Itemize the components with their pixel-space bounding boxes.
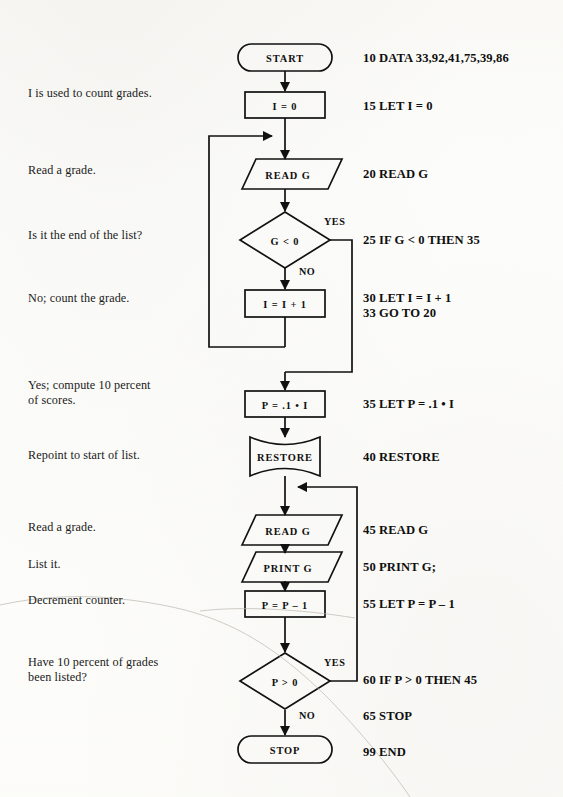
code-55-let: 55 LET P = P – 1 <box>363 597 455 612</box>
label-start-terminator: START <box>266 53 304 64</box>
branch-yes-g: YES <box>324 216 345 227</box>
branch-no-p: NO <box>299 710 315 721</box>
label-print-g: PRINT G <box>263 563 312 574</box>
code-45-read: 45 READ G <box>363 523 428 538</box>
branch-yes-p: YES <box>324 657 345 668</box>
label-increment-i: I = I + 1 <box>263 299 307 310</box>
annotation-end-of-list: Is it the end of the list? <box>28 228 142 243</box>
label-compute-p: P = .1 • I <box>262 400 309 411</box>
annotation-list-it: List it. <box>28 557 61 572</box>
annotation-count-the-grade: No; count the grade. <box>28 291 130 306</box>
code-65-stop: 65 STOP <box>363 709 412 724</box>
code-15-let: 15 LET I = 0 <box>363 99 433 114</box>
annotation-compute-percent: Yes; compute 10 percent of scores. <box>28 378 151 408</box>
branch-no-g: NO <box>299 266 315 277</box>
code-40-restore: 40 RESTORE <box>363 450 440 465</box>
annotation-decrement: Decrement counter. <box>28 593 125 608</box>
annotation-have-listed: Have 10 percent of grades been listed? <box>28 655 158 685</box>
code-30-33: 30 LET I = I + 1 33 GO TO 20 <box>363 291 452 321</box>
code-99-end: 99 END <box>363 745 406 760</box>
label-decision-g: G < 0 <box>271 236 300 247</box>
label-read-g-2: READ G <box>265 526 311 537</box>
code-50-print: 50 PRINT G; <box>363 560 436 575</box>
loopback-yes-p-to-read2 <box>298 487 357 681</box>
label-decision-p: P > 0 <box>272 677 299 688</box>
label-stop-terminator: STOP <box>270 745 301 756</box>
scan-crease-artifact <box>0 597 410 797</box>
code-25-if: 25 IF G < 0 THEN 35 <box>363 233 480 248</box>
label-decrement-p: P = P – 1 <box>262 600 308 611</box>
code-10-data: 10 DATA 33,92,41,75,39,86 <box>363 51 509 66</box>
code-35-let: 35 LET P = .1 • I <box>363 397 454 412</box>
code-60-if: 60 IF P > 0 THEN 45 <box>363 673 477 688</box>
annotation-read-grade-2: Read a grade. <box>28 520 96 535</box>
scanned-flowchart-page: I is used to count grades. Read a grade.… <box>0 0 563 797</box>
label-init-i: I = 0 <box>273 101 298 112</box>
code-20-read: 20 READ G <box>363 167 428 182</box>
label-read-g-1: READ G <box>265 170 311 181</box>
annotation-repoint: Repoint to start of list. <box>28 448 140 463</box>
label-restore: RESTORE <box>257 452 313 463</box>
annotation-count-grades: I is used to count grades. <box>28 86 152 101</box>
annotation-read-grade-1: Read a grade. <box>28 163 96 178</box>
